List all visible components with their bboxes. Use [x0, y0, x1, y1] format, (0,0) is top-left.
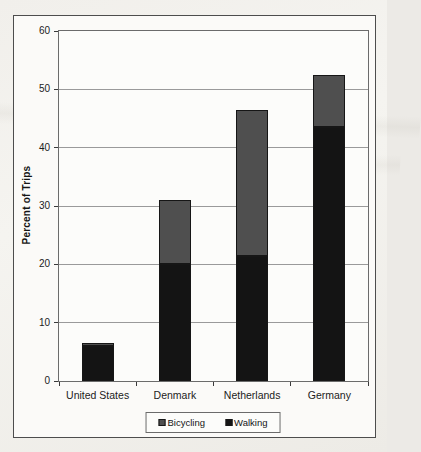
y-tick-label-60: 60 [22, 26, 50, 36]
y-tick-40 [54, 147, 58, 148]
bar-netherlands-walking [236, 256, 268, 381]
legend-label-walking: Walking [234, 417, 267, 428]
legend: Bicycling Walking [146, 412, 281, 433]
y-tick-label-50: 50 [22, 84, 50, 94]
bar-united-states-bicycling [82, 343, 114, 346]
y-tick-60 [54, 31, 58, 32]
x-category-label-netherlands: Netherlands [214, 389, 291, 401]
bar-germany-bicycling [313, 75, 345, 128]
bar-germany-walking [313, 127, 345, 381]
bar-denmark-walking [159, 264, 191, 381]
x-tick-2 [213, 382, 214, 386]
y-tick-20 [54, 264, 58, 265]
bar-denmark-bicycling [159, 200, 191, 264]
y-tick-label-20: 20 [22, 259, 50, 269]
y-tick-50 [54, 89, 58, 90]
y-tick-label-0: 0 [22, 376, 50, 386]
y-tick-label-40: 40 [22, 143, 50, 153]
y-tick-30 [54, 206, 58, 207]
y-tick-0 [54, 381, 58, 382]
x-tick-3 [290, 382, 291, 386]
legend-label-bicycling: Bicycling [168, 417, 206, 428]
x-tick-0 [59, 382, 60, 386]
bar-united-states-walking [82, 346, 114, 381]
y-tick-label-10: 10 [22, 318, 50, 328]
y-tick-10 [54, 322, 58, 323]
bicycling-swatch-icon [159, 419, 166, 426]
x-category-label-germany: Germany [291, 389, 368, 401]
plot-area [58, 30, 369, 382]
x-category-label-united-states: United States [59, 389, 136, 401]
x-tick-4 [368, 382, 369, 386]
y-tick-label-30: 30 [22, 201, 50, 211]
walking-swatch-icon [225, 419, 232, 426]
legend-item-bicycling: Bicycling [159, 417, 206, 428]
legend-item-walking: Walking [225, 417, 267, 428]
x-category-label-denmark: Denmark [136, 389, 213, 401]
x-tick-1 [136, 382, 137, 386]
chart-figure: Percent of Trips 0102030405060 United St… [13, 15, 376, 438]
bar-netherlands-bicycling [236, 110, 268, 256]
